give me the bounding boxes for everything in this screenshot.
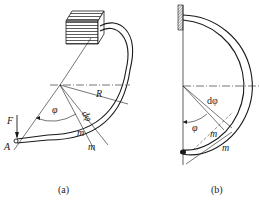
label-dphi-a: dφ <box>80 109 95 124</box>
radial-line-support-a <box>60 38 91 85</box>
angle-arc-phi-a <box>36 114 76 121</box>
fixed-support-block <box>66 11 104 44</box>
label-section-m2-a: m <box>88 141 95 152</box>
label-point-a: A <box>3 141 11 152</box>
label-section-m1-b: m <box>210 128 217 139</box>
caption-b: (b) <box>211 184 223 196</box>
label-radius-r: R <box>95 88 102 99</box>
caption-a: (a) <box>58 184 69 196</box>
force-arrowhead-icon <box>15 132 19 139</box>
radial-line-2-b <box>183 86 224 130</box>
radial-line-1-b <box>183 86 232 128</box>
figure-a: F A R φ dφ m m (a) <box>3 11 133 196</box>
label-dphi-b: dφ <box>207 95 218 106</box>
fixed-wall-b <box>178 5 183 30</box>
label-section-m2-b: m <box>222 142 229 153</box>
radius-line-a <box>60 85 128 104</box>
label-phi-b: φ <box>192 122 198 133</box>
angle-arrowhead-b <box>183 120 187 124</box>
curved-bar-b <box>183 15 252 155</box>
label-phi-a: φ <box>52 104 58 115</box>
end-point-b <box>180 150 186 155</box>
diagram-canvas: F A R φ dφ m m (a) dφ φ m <box>0 0 260 203</box>
label-force-f: F <box>6 115 14 126</box>
figure-b: dφ φ m m (b) <box>178 5 260 196</box>
label-section-m1-a: m <box>77 127 84 138</box>
point-a-marker <box>14 139 18 143</box>
